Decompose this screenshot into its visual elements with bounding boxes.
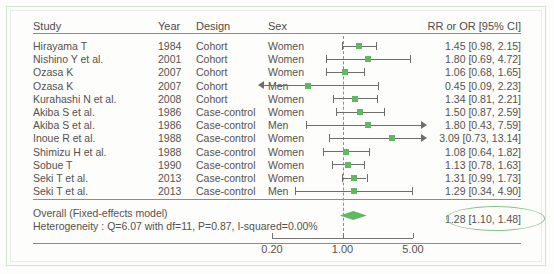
confidence-interval-row [0,172,554,184]
effect-estimate-marker [342,69,348,75]
overall-label: Overall (Fixed-effects model) [33,207,168,219]
ci-cap-high [376,42,377,50]
effect-estimate-marker [305,83,311,89]
confidence-interval-row [0,80,554,92]
ci-cap-low [323,148,324,156]
ci-whisker-line [329,138,421,139]
effect-estimate-marker [365,122,371,128]
ci-cap-low [342,174,343,182]
plot-area: Study Year Design Sex RR or OR [95% CI] … [0,0,554,274]
overall-effect-highlight-ellipse [446,206,545,231]
ci-cap-low [332,161,333,169]
summary-rule [33,199,521,200]
ci-cap-high [364,68,365,76]
x-axis-tick-label: 5.00 [402,243,423,255]
ci-cap-high [412,187,413,195]
ci-cap-high [377,95,378,103]
ci-whisker-line [264,85,378,86]
ci-cap-low [306,121,307,129]
ci-cap-high [364,161,365,169]
ci-cap-high [367,174,368,182]
ci-cap-high [369,148,370,156]
effect-estimate-marker [351,188,357,194]
confidence-interval-row [0,146,554,158]
ci-cap-low [326,68,327,76]
column-header-year: Year [158,20,186,32]
ci-cap-high [378,82,379,90]
effect-estimate-marker [356,43,362,49]
ci-cap-low [295,187,296,195]
effect-estimate-marker [352,96,358,102]
confidence-interval-row [0,132,554,144]
x-axis-tick-label: 0.20 [261,243,282,255]
effect-estimate-marker [343,149,349,155]
forest-plot-figure: Study Year Design Sex RR or OR [95% CI] … [0,0,554,274]
confidence-interval-row [0,40,554,52]
ci-arrow-right [421,121,427,129]
effect-estimate-marker [389,135,395,141]
effect-estimate-marker [351,175,357,181]
ci-cap-low [326,55,327,63]
column-header-effect: RR or OR [95% CI] [400,20,521,32]
confidence-interval-row [0,106,554,118]
confidence-interval-row [0,119,554,131]
effect-estimate-marker [357,109,363,115]
ci-cap-high [410,55,411,63]
column-header-study: Study [33,20,61,32]
ci-cap-low [336,108,337,116]
x-axis-line [272,238,413,239]
heterogeneity-text: Heterogeneity : Q=6.07 with df=11, P=0.8… [33,220,318,232]
ci-arrow-right [421,134,427,142]
x-axis-tick-label: 1.00 [332,243,353,255]
confidence-interval-row [0,159,554,171]
confidence-interval-row [0,53,554,65]
ci-cap-low [329,134,330,142]
ci-cap-low [333,95,334,103]
ci-whisker-line [306,125,421,126]
ci-arrow-left [258,81,264,89]
column-header-sex: Sex [268,20,287,32]
effect-estimate-marker [365,56,371,62]
x-axis-tick [413,233,414,238]
confidence-interval-row [0,185,554,197]
confidence-interval-row [0,66,554,78]
x-axis-tick [272,233,273,238]
header-rule [33,33,521,34]
ci-cap-high [384,108,385,116]
ci-cap-low [342,42,343,50]
confidence-interval-row [0,93,554,105]
effect-estimate-marker [345,162,351,168]
column-header-design: Design [196,20,230,32]
x-axis-tick [343,233,344,238]
